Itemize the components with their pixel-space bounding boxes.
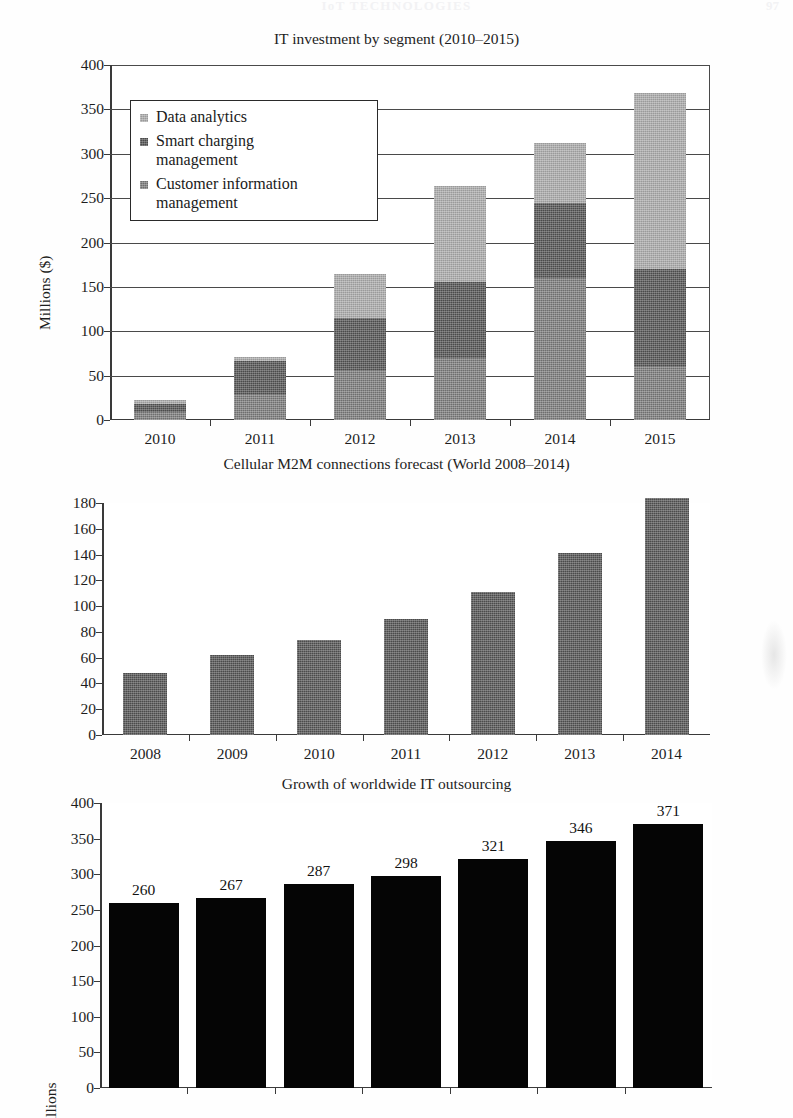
y-tick-label: 300 — [71, 867, 94, 883]
y-tick-mark — [96, 529, 102, 530]
y-tick-label: 60 — [81, 650, 97, 666]
legend-swatch-icon — [140, 114, 148, 122]
y-tick-mark — [104, 154, 110, 155]
y-tick-label: 160 — [73, 521, 96, 537]
y-tick-mark — [96, 709, 102, 710]
y-tick-mark — [94, 839, 100, 840]
bar-segment — [334, 274, 386, 317]
bar-segment — [134, 400, 186, 404]
y-tick-mark — [94, 946, 100, 947]
bar — [134, 400, 186, 420]
y-tick-mark — [104, 331, 110, 332]
x-tick-label: 2013 — [564, 745, 595, 763]
y-tick-label: 0 — [88, 727, 96, 743]
x-tick-mark — [449, 735, 450, 741]
x-tick-label: 2011 — [391, 745, 421, 763]
chart2-axis-left — [102, 503, 104, 735]
x-tick-mark — [310, 420, 311, 426]
gridline — [110, 376, 710, 377]
y-tick-mark — [104, 420, 110, 421]
bar-value-label: 371 — [657, 802, 680, 820]
bar — [633, 824, 703, 1088]
y-tick-mark — [94, 1052, 100, 1053]
x-tick-label: 2015 — [645, 430, 676, 448]
y-tick-mark — [94, 803, 100, 804]
bar — [234, 357, 286, 420]
bar — [434, 186, 486, 420]
y-tick-label: 150 — [71, 973, 94, 989]
bar — [297, 640, 341, 735]
y-tick-mark — [96, 683, 102, 684]
y-tick-mark — [104, 376, 110, 377]
x-tick-mark — [276, 735, 277, 741]
chart-worldwide-it-outsourcing: Growth of worldwide IT outsourcing A$b 0… — [0, 775, 793, 1118]
y-tick-mark — [96, 580, 102, 581]
bar-segment — [234, 357, 286, 361]
y-tick-label: 0 — [86, 1080, 94, 1096]
bar-segment — [234, 361, 286, 395]
chart-it-investment-by-segment: IT investment by segment (2010–2015) Mil… — [0, 30, 793, 430]
bar — [371, 876, 441, 1088]
bar-segment — [634, 93, 686, 269]
gridline — [110, 287, 710, 288]
bar — [471, 592, 515, 735]
y-tick-label: 350 — [81, 102, 104, 118]
x-tick-label: 2014 — [545, 430, 576, 448]
bar — [634, 93, 686, 420]
x-tick-mark — [210, 420, 211, 426]
legend-label: Customer information management — [156, 175, 356, 212]
bar-value-label: 321 — [482, 837, 505, 855]
x-tick-label: 2013 — [445, 430, 476, 448]
y-tick-mark — [104, 243, 110, 244]
y-tick-label: 150 — [81, 279, 104, 295]
legend-item-data-analytics: Data analytics — [140, 108, 367, 126]
y-tick-label: 100 — [73, 598, 96, 614]
x-tick-label: 2012 — [345, 430, 376, 448]
bar-segment — [534, 278, 586, 420]
x-tick-mark — [625, 1088, 626, 1094]
bar-segment — [334, 318, 386, 371]
bar-segment — [434, 282, 486, 357]
y-tick-label: 250 — [71, 902, 94, 918]
x-tick-label: 2011 — [245, 430, 275, 448]
x-tick-label: 2012 — [477, 745, 508, 763]
bar-segment — [434, 358, 486, 420]
bar-value-label: 287 — [307, 862, 330, 880]
x-tick-label: 2014 — [651, 745, 682, 763]
y-tick-mark — [94, 910, 100, 911]
y-tick-label: 0 — [96, 412, 104, 428]
bar — [210, 655, 254, 735]
legend-item-customer-information-management: Customer information management — [140, 175, 367, 212]
legend-swatch-icon — [140, 138, 148, 146]
x-tick-mark — [363, 735, 364, 741]
x-tick-mark — [610, 420, 611, 426]
x-tick-mark — [510, 420, 511, 426]
bar — [645, 498, 689, 735]
y-tick-mark — [104, 65, 110, 66]
y-tick-label: 180 — [73, 495, 96, 511]
x-tick-mark — [623, 735, 624, 741]
chart1-axis-top — [110, 65, 710, 66]
chart3-title: Growth of worldwide IT outsourcing — [0, 775, 793, 793]
x-tick-label: 2010 — [145, 430, 176, 448]
running-head: IoT TECHNOLOGIES — [0, 0, 793, 14]
y-tick-mark — [94, 1088, 100, 1089]
bar-segment — [634, 269, 686, 367]
y-tick-mark — [104, 198, 110, 199]
bar — [558, 553, 602, 735]
x-tick-mark — [275, 1088, 276, 1094]
bar-segment — [534, 203, 586, 278]
legend-label: Data analytics — [156, 108, 247, 126]
y-tick-mark — [96, 658, 102, 659]
y-tick-mark — [104, 109, 110, 110]
y-tick-label: 400 — [71, 795, 94, 811]
x-tick-mark — [187, 1088, 188, 1094]
bar — [334, 274, 386, 420]
y-tick-label: 50 — [79, 1045, 95, 1061]
bar-segment — [434, 186, 486, 283]
y-tick-mark — [96, 606, 102, 607]
y-tick-label: 20 — [81, 701, 97, 717]
gridline — [110, 331, 710, 332]
bar — [284, 884, 354, 1088]
x-tick-mark — [410, 420, 411, 426]
